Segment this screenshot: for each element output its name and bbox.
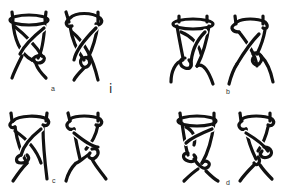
panel-c: c — [0, 97, 143, 195]
panel-d: d — [143, 97, 286, 195]
panel-label-c: c — [52, 177, 56, 184]
knot-a-left — [8, 10, 52, 80]
panel-b: b — [143, 0, 286, 97]
stray-mark: i — [109, 83, 112, 95]
knot-c-right — [62, 111, 110, 183]
knot-b-right — [227, 14, 275, 84]
knot-c-left — [7, 111, 53, 183]
knot-b-left — [169, 14, 217, 84]
panel-a: a i — [0, 0, 143, 97]
panel-label-a: a — [51, 85, 55, 92]
knot-d-left — [176, 111, 222, 183]
panel-label-d: d — [226, 179, 230, 186]
knot-d-right — [234, 111, 280, 183]
panel-label-b: b — [226, 88, 230, 95]
knot-a-right — [62, 10, 108, 82]
